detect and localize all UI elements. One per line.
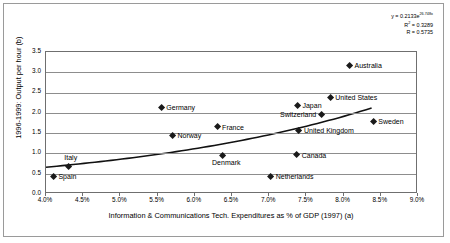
regression-annotation: y = 0.2133e26.748x R2 = 0.3289 R = 0.573…	[355, 11, 433, 36]
equation-exponent: 26.748x	[419, 12, 433, 16]
data-point-label: Spain	[58, 173, 76, 180]
data-point-label: Switzerland	[280, 111, 316, 118]
x-tick-label: 6.0%	[179, 197, 209, 203]
data-point-label: Japan	[302, 102, 321, 109]
data-point-label: Sweden	[378, 118, 403, 125]
x-tick-label: 5.0%	[104, 197, 134, 203]
x-axis-ticks: 4.0%4.5%5.0%5.5%6.0%6.5%7.0%7.5%8.0%8.5%…	[45, 197, 417, 207]
x-tick-label: 7.0%	[253, 197, 283, 203]
x-tick-label: 8.5%	[365, 197, 395, 203]
data-point-label: Netherlands	[276, 173, 314, 180]
gridline	[46, 72, 416, 73]
y-tick-label: 1.0	[19, 149, 41, 155]
x-tick-label: 8.0%	[328, 197, 358, 203]
y-tick-label: 2.5	[19, 88, 41, 94]
gridline	[46, 174, 416, 175]
chart-canvas: y = 0.2133e26.748x R2 = 0.3289 R = 0.573…	[0, 0, 450, 243]
y-tick-label: 3.0	[19, 68, 41, 74]
data-point-label: Germany	[166, 104, 195, 111]
data-point-label: Norway	[177, 132, 201, 139]
data-point-label: Canada	[302, 152, 327, 159]
y-tick-label: 2.0	[19, 109, 41, 115]
r-line: R = 0.5735	[355, 29, 433, 36]
x-tick-label: 7.5%	[290, 197, 320, 203]
data-point-label: Australia	[355, 62, 382, 69]
y-tick-label: 3.5	[19, 48, 41, 54]
y-axis-ticks: 0.00.51.01.52.02.53.03.5	[17, 51, 41, 193]
equation-line: y = 0.2133e26.748x	[355, 11, 433, 20]
gridline	[46, 113, 416, 114]
gridline	[46, 133, 416, 134]
data-point-label: United Kingdom	[304, 127, 354, 134]
r-squared-value: = 0.3289	[410, 22, 433, 28]
x-tick-label: 5.5%	[142, 197, 172, 203]
plot-area: AustraliaUnited StatesJapanGermanySwitze…	[45, 51, 417, 193]
equation-prefix: y = 0.2133e	[391, 13, 419, 19]
data-point-label: Italy	[64, 154, 77, 161]
gridline	[46, 153, 416, 154]
r-squared-line: R2 = 0.3289	[355, 20, 433, 29]
y-tick-label: 0.5	[19, 170, 41, 176]
x-tick-label: 4.5%	[67, 197, 97, 203]
x-tick-label: 6.5%	[216, 197, 246, 203]
data-point-label: United States	[335, 94, 377, 101]
y-tick-label: 1.5	[19, 129, 41, 135]
x-axis-title: Information & Communications Tech. Expen…	[45, 212, 417, 219]
x-tick-label: 4.0%	[30, 197, 60, 203]
x-tick-label: 9.0%	[402, 197, 432, 203]
data-point-label: France	[222, 124, 244, 131]
data-point-label: Denmark	[212, 159, 240, 166]
